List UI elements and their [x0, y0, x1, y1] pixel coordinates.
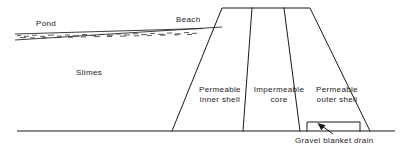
zone-boundary-inner-core — [243, 8, 252, 131]
zone-label-permeable-outer-shell: Permeable outer shell — [308, 85, 366, 105]
beach-label: Beach — [176, 15, 200, 25]
zone-label-impermeable-core: Impermeable core — [248, 85, 310, 105]
zone-label-line-2: core — [248, 95, 310, 105]
dam-cross-section-drawing — [0, 0, 407, 153]
slimes-label: Slimes — [76, 68, 102, 78]
pond-label: Pond — [36, 19, 56, 29]
zone-label-line-2: inner shell — [190, 95, 250, 105]
zone-label-line-2: outer shell — [308, 95, 366, 105]
pond-water-surface-line — [15, 29, 203, 35]
gravel-blanket-drain-rect — [307, 122, 360, 131]
embankment-outline — [172, 8, 370, 131]
zone-boundary-core-outer — [284, 8, 300, 131]
zone-label-line-1: Permeable — [308, 85, 366, 95]
tailings-dam-diagram: Pond Beach Slimes Permeable inner shell … — [0, 0, 407, 153]
gravel-blanket-drain-label: Gravel blanket drain — [295, 136, 374, 146]
zone-label-permeable-inner-shell: Permeable inner shell — [190, 85, 250, 105]
zone-label-line-1: Permeable — [190, 85, 250, 95]
zone-label-line-1: Impermeable — [248, 85, 310, 95]
drain-arrow-head — [318, 123, 326, 130]
